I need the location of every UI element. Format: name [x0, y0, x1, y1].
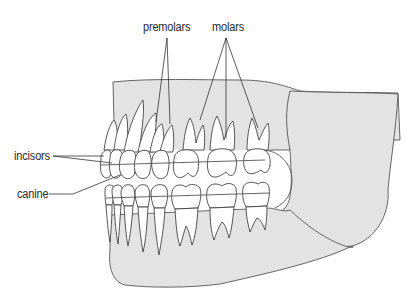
- label-canine: canine: [17, 188, 48, 201]
- label-molars: molars: [212, 21, 244, 34]
- label-incisors: incisors: [14, 150, 50, 163]
- label-premolars: premolars: [143, 21, 190, 34]
- jaw-diagram: [0, 0, 411, 299]
